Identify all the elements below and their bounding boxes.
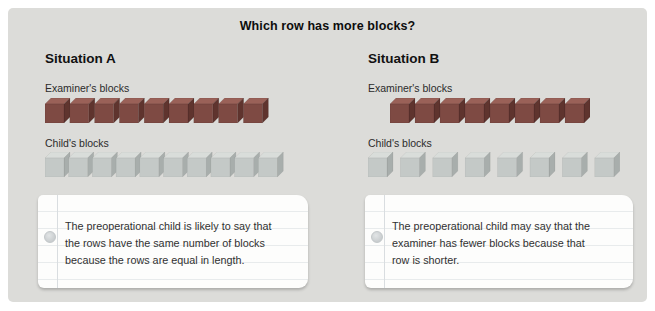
cube-row-graphic — [45, 152, 284, 177]
cube-row-graphic — [390, 98, 590, 123]
childs-blocks-label-a: Child's blocks — [45, 137, 109, 149]
childs-blocks-row-a — [45, 152, 284, 177]
note-hole-icon — [371, 231, 383, 243]
examiner-blocks-row-b — [390, 98, 590, 123]
childs-blocks-label-b: Child's blocks — [368, 137, 432, 149]
cube-row-graphic — [45, 98, 269, 123]
note-text-b: The preoperational child may say that th… — [392, 218, 600, 269]
note-text-a: The preoperational child is likely to sa… — [65, 218, 273, 269]
examiner-blocks-label-a: Examiner's blocks — [45, 82, 129, 94]
figure-title: Which row has more blocks? — [0, 19, 655, 33]
childs-blocks-row-b — [368, 152, 620, 177]
note-card-a: The preoperational child is likely to sa… — [38, 195, 308, 288]
note-margin-line — [57, 195, 58, 288]
examiner-blocks-row-a — [45, 98, 269, 123]
note-card-b: The preoperational child may say that th… — [365, 195, 633, 288]
situation-a-heading: Situation A — [45, 51, 116, 66]
examiner-blocks-label-b: Examiner's blocks — [368, 82, 452, 94]
note-margin-line — [384, 195, 385, 288]
note-hole-icon — [44, 231, 56, 243]
figure: Which row has more blocks? Situation A E… — [0, 0, 655, 311]
situation-b-heading: Situation B — [368, 51, 439, 66]
cube-row-graphic — [368, 152, 620, 177]
